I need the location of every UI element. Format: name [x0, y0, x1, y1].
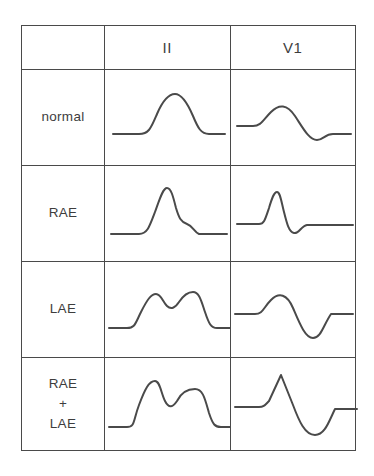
table-row: normal [22, 70, 356, 166]
row-label-line: LAE [22, 414, 104, 434]
row-label-normal: normal [22, 70, 105, 166]
cell-rae-lae-lead-ii [105, 358, 231, 451]
column-header-lead-ii: II [105, 26, 231, 70]
cell-normal-lead-v1 [230, 70, 356, 166]
table-header-row: II V1 [22, 26, 356, 70]
rae-lae-lead-v1-waveform [231, 365, 361, 443]
lae-lead-v1-waveform [231, 270, 357, 350]
rae-lae-lead-ii-waveform [105, 365, 237, 443]
waveform-path [113, 94, 225, 134]
p-wave-morphology-table: II V1 normal [21, 25, 356, 451]
rae-lead-ii-waveform [105, 174, 231, 254]
ecg-p-wave-figure: II V1 normal [0, 0, 374, 476]
cell-lae-lead-v1 [230, 262, 356, 358]
normal-lead-v1-waveform [231, 78, 357, 158]
rae-lead-v1-waveform [231, 174, 357, 254]
normal-lead-ii-waveform [105, 78, 231, 158]
cell-rae-lead-ii [105, 166, 231, 262]
waveform-path [109, 292, 231, 328]
row-label-line: normal [22, 107, 104, 127]
cell-lae-lead-ii [105, 262, 231, 358]
column-header-lead-v1: V1 [230, 26, 356, 70]
table-row: RAE [22, 166, 356, 262]
row-label-line: LAE [22, 299, 104, 319]
waveform-path [235, 295, 353, 338]
waveform-path [109, 381, 235, 427]
row-label-line: + [22, 394, 104, 414]
table-row: LAE [22, 262, 356, 358]
cell-rae-lae-lead-v1 [230, 358, 356, 451]
waveform-path [237, 106, 351, 140]
corner-cell [22, 26, 105, 70]
row-label-rae-lae: RAE + LAE [22, 358, 105, 451]
cell-rae-lead-v1 [230, 166, 356, 262]
waveform-path [235, 375, 357, 435]
lae-lead-ii-waveform [105, 270, 231, 350]
row-label-rae: RAE [22, 166, 105, 262]
waveform-path [237, 192, 353, 233]
row-label-lae: LAE [22, 262, 105, 358]
row-label-line: RAE [22, 374, 104, 394]
row-label-line: RAE [22, 203, 104, 223]
waveform-path [111, 188, 227, 234]
cell-normal-lead-ii [105, 70, 231, 166]
table-row: RAE + LAE [22, 358, 356, 451]
